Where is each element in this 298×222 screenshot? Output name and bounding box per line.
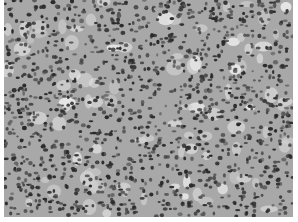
cell-texture xyxy=(4,0,293,217)
micrograph-image xyxy=(4,0,293,217)
